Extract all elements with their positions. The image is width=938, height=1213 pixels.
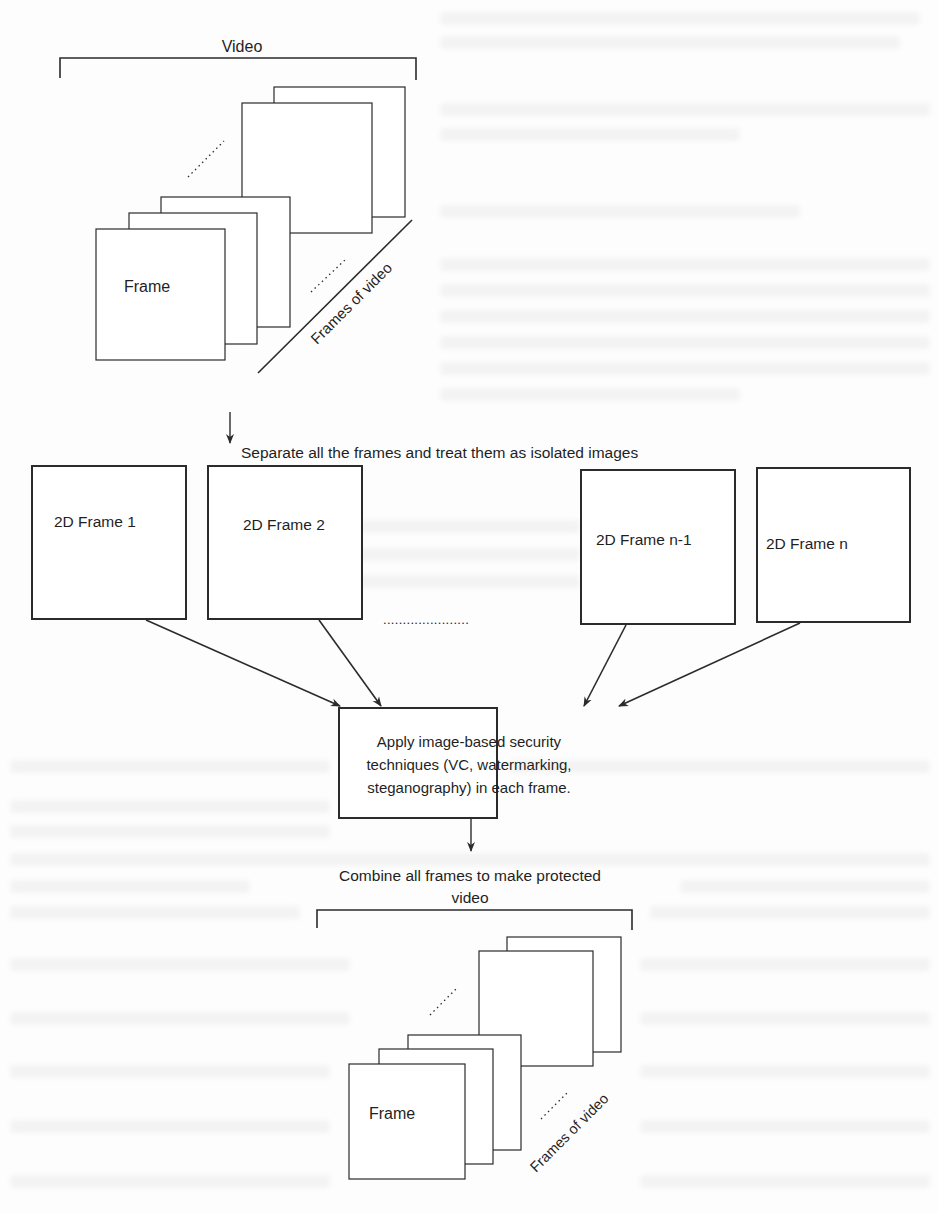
out-frame-front-label: Frame (369, 1105, 415, 1122)
frame-box-1 (32, 466, 186, 619)
arrow-frame2-to-process (319, 620, 381, 706)
combine-step-label-2: video (451, 889, 488, 906)
ellipsis-dots (311, 259, 346, 292)
isolated-frames-row: 2D Frame 1 2D Frame 2 ..................… (32, 466, 910, 627)
security-process-box: Apply image-based security techniques (V… (339, 708, 572, 818)
separate-step-label: Separate all the frames and treat them a… (241, 444, 638, 461)
arrow-framen1-to-process (584, 625, 626, 706)
arrow-frame1-to-process (146, 620, 340, 706)
converging-arrows (146, 620, 800, 706)
ellipsis-dots (541, 1091, 569, 1119)
frame-box-n-minus-1-label: 2D Frame n-1 (596, 531, 692, 548)
input-video-stack: Video Frame Frames of video (60, 38, 416, 373)
video-bracket-label: Video (222, 38, 263, 55)
process-line-1: Apply image-based security (377, 733, 562, 750)
frame-box-2-label: 2D Frame 2 (243, 516, 325, 533)
video-bracket (60, 58, 416, 80)
arrow-framen-to-process (619, 623, 800, 706)
ellipsis-dots (188, 141, 224, 177)
process-line-3: steganography) in each frame. (367, 779, 570, 796)
scanned-page: Video Frame Frames of video Separate all… (0, 0, 938, 1213)
ellipsis-dots (430, 987, 458, 1015)
protected-video-stack: Frame Frames of video (317, 910, 632, 1179)
out-frames-of-video-label: Frames of video (527, 1090, 612, 1175)
process-line-2: techniques (VC, watermarking, (366, 756, 571, 773)
frame-box-1-label: 2D Frame 1 (54, 513, 136, 530)
frame-box-2 (208, 466, 362, 619)
video-security-flow-diagram: Video Frame Frames of video Separate all… (0, 0, 938, 1213)
frame-box-n-label: 2D Frame n (766, 535, 848, 552)
combine-step-label-1: Combine all frames to make protected (339, 867, 601, 884)
frames-of-video-label: Frames of video (307, 259, 395, 347)
frames-ellipsis: ...................... (383, 612, 469, 627)
frame-front-label: Frame (124, 278, 170, 295)
protected-video-bracket (317, 910, 632, 930)
